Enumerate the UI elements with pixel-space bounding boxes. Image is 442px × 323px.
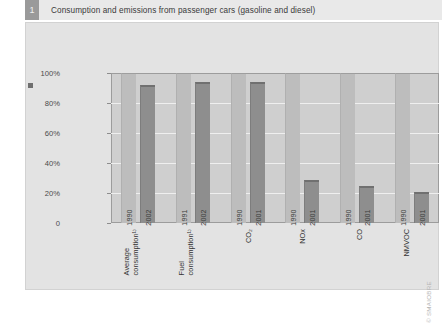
- bar: 2001: [414, 192, 429, 224]
- bar-group: 19902001: [220, 73, 275, 223]
- bar-group: 19902001: [384, 73, 439, 223]
- bar: 2001: [250, 82, 265, 223]
- bar: 2002: [195, 82, 210, 223]
- bar: 2001: [359, 186, 374, 224]
- bar: 1990: [231, 73, 246, 223]
- y-axis-tick-label: 60%: [0, 129, 60, 138]
- bar-year-label: 1990: [235, 209, 242, 225]
- y-axis-tick-label: 100%: [0, 69, 60, 78]
- figure-header: 1 Consumption and emissions from passeng…: [25, 0, 442, 20]
- copyright-credit: © SMAIOBRE: [425, 281, 432, 323]
- bar-year-label: 2001: [418, 209, 425, 225]
- x-axis-category-label: NOx: [299, 229, 308, 244]
- bar-year-label: 2001: [254, 209, 261, 225]
- y-axis-tick-label: 20%: [0, 189, 60, 198]
- bar: 1991: [176, 73, 191, 223]
- y-axis-tick-label: 80%: [0, 99, 60, 108]
- bar: 1990: [121, 73, 136, 223]
- x-axis-category-label: Averageconsumption¹⁾: [124, 229, 141, 275]
- bar-year-label: 1990: [126, 209, 133, 225]
- bar: 1990: [395, 73, 410, 223]
- y-axis-tick-mark: [107, 223, 111, 224]
- margin-mark-icon: [28, 83, 33, 88]
- chart-area: 020%40%60%80%100% 1990200219912002199020…: [59, 59, 442, 234]
- x-axis-category-label: NMVOC: [402, 229, 411, 257]
- x-axis-category-label: CO₂: [245, 229, 254, 243]
- bar-group: 19902002: [111, 73, 166, 223]
- bar-year-label: 2002: [199, 209, 206, 225]
- bar-year-label: 2002: [145, 209, 152, 225]
- bar-group: 19902001: [330, 73, 385, 223]
- bar: 1990: [285, 73, 300, 223]
- bar-group: 19902001: [275, 73, 330, 223]
- bar-series: 1990200219912002199020011990200119902001…: [111, 73, 439, 223]
- figure-title: Consumption and emissions from passenger…: [51, 6, 315, 15]
- bar: 2001: [304, 180, 319, 224]
- figure-card: 020%40%60%80%100% 1990200219912002199020…: [25, 22, 439, 290]
- bar-year-label: 2001: [309, 209, 316, 225]
- bar: 2002: [140, 85, 155, 223]
- bar-year-label: 1990: [344, 209, 351, 225]
- bar-year-label: 1990: [290, 209, 297, 225]
- x-axis-category-label: Fuelconsumption¹⁾: [178, 229, 195, 275]
- figure-number-badge: 1: [25, 0, 39, 20]
- x-axis-category-label: CO: [356, 229, 365, 240]
- y-axis-tick-label: 0: [0, 219, 60, 228]
- bar: 1990: [340, 73, 355, 223]
- bar-group: 19912002: [166, 73, 221, 223]
- bar-year-label: 1991: [180, 209, 187, 225]
- bar-year-label: 2001: [363, 209, 370, 225]
- y-axis-tick-label: 40%: [0, 159, 60, 168]
- bar-year-label: 1990: [399, 209, 406, 225]
